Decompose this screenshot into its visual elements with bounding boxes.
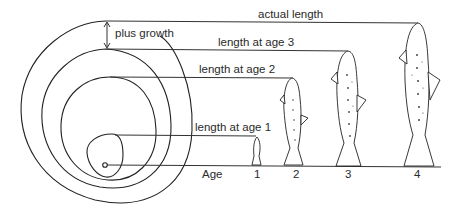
fish-age-2-icon — [280, 78, 308, 165]
fish-age-4-icon — [399, 23, 440, 166]
age-tick-2: 2 — [293, 168, 299, 180]
fish-age-3-icon — [331, 51, 366, 166]
scale-growth-diagram: plus growth actual length length at age … — [0, 0, 463, 213]
actual-length-label: actual length — [258, 8, 323, 20]
age3-length-label: length at age 3 — [218, 36, 294, 48]
ring-age1 — [87, 134, 123, 177]
scale-focus — [103, 163, 108, 168]
plus-growth-arrow — [104, 22, 110, 48]
age-tick-3: 3 — [345, 168, 351, 180]
age1-length-label: length at age 1 — [195, 121, 271, 133]
plus-growth-label: plus growth — [115, 27, 174, 39]
age-tick-1: 1 — [254, 168, 260, 180]
age2-length-label: length at age 2 — [199, 63, 275, 75]
age-axis-label: Age — [202, 168, 222, 180]
age-tick-4: 4 — [414, 168, 421, 180]
age-baseline — [107, 165, 441, 167]
fish-age-1-icon — [252, 137, 261, 165]
